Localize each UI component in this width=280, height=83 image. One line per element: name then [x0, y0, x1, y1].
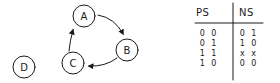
state-label-a: A — [81, 11, 88, 22]
row-4-ns: 0 0 — [240, 59, 259, 68]
header-present-state: PS — [196, 7, 209, 18]
state-label-b: B — [124, 45, 131, 56]
state-node-a: A — [73, 5, 95, 27]
state-table: PS NS 0 0 0 1 0 1 1 0 1 1 x x 1 0 0 0 — [195, 3, 263, 80]
edge-a-to-b-arrow-icon — [98, 15, 123, 34]
row-3-ps: 1 1 — [200, 49, 219, 58]
state-node-d: D — [13, 56, 35, 78]
state-label-c: C — [70, 58, 77, 69]
row-1-ps: 0 0 — [200, 29, 219, 38]
edge-c-to-a-arrow-icon — [69, 30, 73, 51]
table-row: 0 1 1 0 — [200, 39, 259, 48]
edge-b-to-c-arrow-icon — [89, 58, 117, 66]
row-4-ps: 1 0 — [200, 59, 219, 68]
state-label-d: D — [20, 62, 28, 73]
row-2-ps: 0 1 — [200, 39, 219, 48]
state-diagram-canvas: A B C D PS NS 0 0 0 1 0 1 1 0 1 1 — [0, 0, 280, 83]
row-3-ns: x x — [240, 49, 258, 58]
table-row: 1 1 x x — [200, 49, 258, 58]
table-row: 0 0 0 1 — [200, 29, 259, 38]
row-2-ns: 1 0 — [240, 39, 259, 48]
state-node-b: B — [116, 39, 138, 61]
header-next-state: NS — [239, 7, 254, 18]
table-row: 1 0 0 0 — [200, 59, 259, 68]
row-1-ns: 0 1 — [240, 29, 259, 38]
state-node-c: C — [62, 52, 84, 74]
